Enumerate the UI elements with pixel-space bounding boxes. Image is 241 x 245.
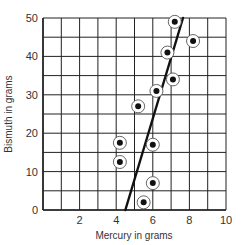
data-point xyxy=(146,177,159,190)
y-tick-label: 50 xyxy=(26,12,38,24)
x-tick-label: 2 xyxy=(77,214,83,226)
point-dot xyxy=(150,180,156,186)
data-point xyxy=(113,136,126,149)
y-tick-label: 20 xyxy=(26,127,38,139)
data-point xyxy=(132,100,145,113)
data-point xyxy=(168,15,181,28)
data-point xyxy=(166,73,179,86)
x-tick-label: 8 xyxy=(186,214,192,226)
x-axis-label: Mercury in grams xyxy=(95,230,172,241)
point-dot xyxy=(117,159,123,165)
y-axis-label: Bismuth in grams xyxy=(3,75,14,152)
point-dot xyxy=(170,76,176,82)
data-point xyxy=(187,35,200,48)
y-tick-label: 0 xyxy=(32,204,38,216)
y-tick-label: 40 xyxy=(26,50,38,62)
data-point xyxy=(146,138,159,151)
point-dot xyxy=(172,19,178,25)
data-point xyxy=(113,156,126,169)
y-tick-label: 10 xyxy=(26,166,38,178)
scatter-chart: 01020304050 246810 Mercury in grams Bism… xyxy=(0,0,241,245)
y-axis-ticks: 01020304050 xyxy=(26,12,38,216)
point-dot xyxy=(150,142,156,148)
point-dot xyxy=(164,50,170,56)
x-tick-label: 10 xyxy=(220,214,232,226)
x-axis-ticks: 246810 xyxy=(77,214,233,226)
data-point xyxy=(150,84,163,97)
x-tick-label: 4 xyxy=(113,214,119,226)
point-dot xyxy=(141,199,147,205)
data-point xyxy=(161,46,174,59)
point-dot xyxy=(135,103,141,109)
x-tick-label: 6 xyxy=(150,214,156,226)
data-points xyxy=(113,15,199,208)
point-dot xyxy=(153,88,159,94)
point-dot xyxy=(190,38,196,44)
y-tick-label: 30 xyxy=(26,89,38,101)
data-point xyxy=(137,196,150,209)
point-dot xyxy=(117,140,123,146)
